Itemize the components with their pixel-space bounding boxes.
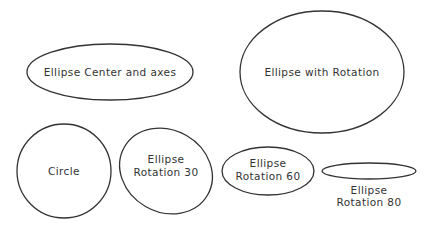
ellipse-rotation-80-label-line1: Ellipse xyxy=(351,184,388,196)
drawing-svg: Ellipse Center and axes Ellipse with Rot… xyxy=(0,0,436,231)
ellipse-rotation-80 xyxy=(322,163,416,179)
ellipse-center-axes-label: Ellipse Center and axes xyxy=(44,66,177,78)
drawing-canvas: Ellipse Center and axes Ellipse with Rot… xyxy=(0,0,436,231)
circle-label: Circle xyxy=(48,165,80,177)
ellipse-rotation-80-label-line2: Rotation 80 xyxy=(336,196,401,208)
ellipse-with-rotation-label: Ellipse with Rotation xyxy=(264,66,379,78)
ellipse-rotation-30-label-line2: Rotation 30 xyxy=(133,166,198,178)
ellipse-rotation-60-label-line1: Ellipse xyxy=(250,157,287,169)
ellipse-rotation-60-label-line2: Rotation 60 xyxy=(235,170,300,182)
ellipse-rotation-30-label-line1: Ellipse xyxy=(148,153,185,165)
